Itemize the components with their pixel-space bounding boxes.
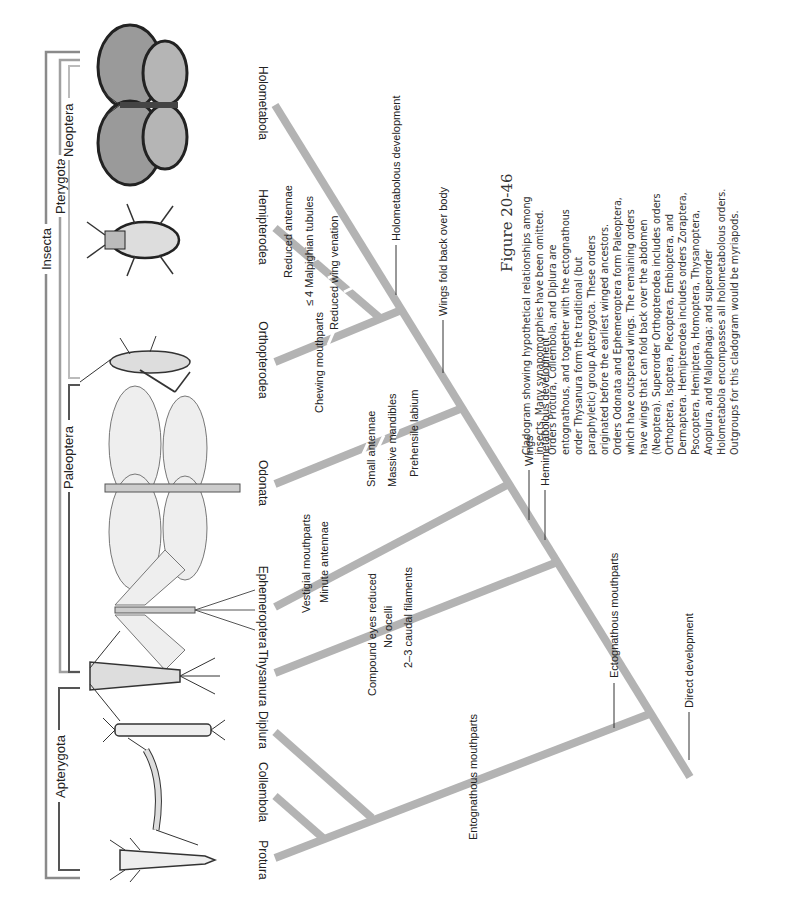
caption-line: originated before the earliest winged an… — [599, 224, 610, 455]
dipluran-illustration — [103, 718, 225, 742]
taxon-protura: Protura — [256, 840, 270, 880]
trait-holometabolous-development: Holometabolous development — [390, 95, 402, 241]
trait-compound-eyes-reduced: Compound eyes reduced — [366, 573, 378, 696]
caption-line: Orthoptera, Isoptera, Plecoptera, Embiop… — [664, 214, 675, 455]
caption-line: paraphyletic) group Apterygota. These or… — [586, 235, 597, 455]
taxon-collembola: Collembola — [256, 762, 270, 822]
trait-no-ocelli: No ocelli — [382, 606, 394, 648]
taxon-holometabola: Holometabola — [256, 66, 270, 140]
trait-wings-fold-back: Wings fold back over body — [437, 186, 449, 316]
caption-line: Psocoptera, Hemiptera, Homoptera, Thysan… — [690, 210, 701, 455]
taxon-labels: Holometabola Hemipterodea Orthopterodea … — [256, 66, 270, 880]
caption-line: which have outspread wings. The remainin… — [625, 209, 636, 455]
proturan-illustration — [110, 838, 215, 882]
trait-small-antennae: Small antennae — [365, 411, 377, 487]
trait-prehensile-labium: Prehensile labium — [408, 390, 420, 477]
caption-line: Orders Odonata and Ephemeroptera form Pa… — [612, 197, 623, 455]
pterygota-label: Pterygota — [53, 158, 68, 214]
neoptera-label: Neoptera — [61, 103, 76, 157]
springtail-illustration — [128, 738, 198, 845]
trait-minute-antennae: Minute antennae — [318, 521, 330, 603]
trait-reduced-wing-venation: Reduced wing venation — [328, 216, 340, 330]
caption-line: (Neoptera). Superorder Orthopterodea inc… — [651, 193, 662, 455]
trait-labels: Direct development Entognathous mouthpar… — [282, 95, 695, 840]
taxon-thysanura: Thysanura — [256, 650, 270, 707]
paleoptera-label: Paleoptera — [61, 425, 76, 489]
taxon-odonata: Odonata — [256, 460, 270, 506]
trait-direct-development: Direct development — [683, 613, 695, 708]
trait-reduced-antennae: Reduced antennae — [282, 185, 294, 278]
orthopteran-illustration — [80, 336, 190, 392]
caption-line: Outgroups for this cladogram would be my… — [729, 211, 740, 455]
butterfly-illustration — [98, 25, 187, 185]
caption-line: order Thysanura form the traditional (bu… — [573, 256, 584, 455]
taxon-orthopterodea: Orthopterodea — [256, 321, 270, 399]
figure-title: Figure 20-46 — [498, 173, 516, 272]
figure-caption: Figure 20-46 Cladogram showing hypotheti… — [498, 173, 740, 455]
cladogram: Insecta Pterygota Neoptera Paleoptera Ap… — [0, 0, 791, 913]
insecta-label: Insecta — [39, 227, 54, 270]
taxon-diplura: Diplura — [256, 711, 270, 749]
caption-line: Dermaptera. Hemipterodea includes orders… — [677, 192, 688, 455]
trait-chewing-mouthparts: Chewing mouthparts — [313, 312, 325, 413]
taxon-ephemeroptera: Ephemeroptera — [256, 566, 270, 649]
trait-malpighian-tubules: ≤ 4 Malpighian tubules — [303, 196, 315, 306]
caption-line: Cladogram showing hypothetical relations… — [521, 196, 532, 455]
branch-collembola — [275, 796, 323, 838]
caption-line: insects. Many synapomorphies have been o… — [534, 210, 545, 455]
caption-line: Orders Protura, Collembola, and Diplura … — [547, 244, 558, 455]
taxon-hemipterodea: Hemipterodea — [256, 189, 270, 265]
apterygota-label: Apterygota — [53, 734, 68, 798]
trait-vestigial-mouthparts: Vestigial mouthparts — [300, 513, 312, 613]
caption-line: Anoplura, and Mallophaga; and superorder — [703, 249, 714, 455]
trait-massive-mandibles: Massive mandibles — [386, 393, 398, 487]
caption-line: entognathous, and together with the ecto… — [560, 209, 571, 455]
caption-line: have wings that can fold back over the a… — [638, 219, 649, 455]
caption-line: Holometabola encompasses all holometabol… — [716, 189, 727, 455]
trait-caudal-filaments: 2–3 caudal filaments — [402, 567, 414, 668]
trait-entognathous-mouthparts: Entognathous mouthparts — [467, 714, 479, 840]
trait-ectognathous-mouthparts: Ectognathous mouthparts — [608, 552, 620, 678]
hemipteran-illustration — [87, 204, 179, 276]
